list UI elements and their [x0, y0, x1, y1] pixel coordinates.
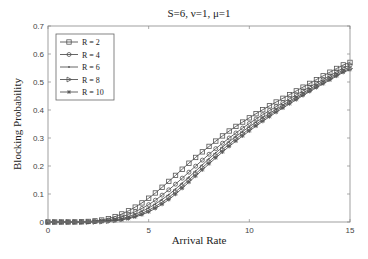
chart: S=6, ν=1, μ=1 00.10.20.30.40.50.60.70510…	[0, 0, 368, 259]
star-marker	[133, 215, 137, 219]
star-marker	[234, 139, 238, 143]
star-marker	[167, 198, 171, 202]
x-tick-label: 5	[146, 226, 151, 235]
star-marker	[314, 86, 318, 90]
x-tick-label: 15	[346, 226, 355, 235]
legend-label: R = 2	[82, 38, 100, 47]
y-tick-label: 0	[40, 218, 45, 227]
x-tick-label: 10	[245, 226, 254, 235]
star-marker	[247, 129, 251, 133]
star-marker	[180, 186, 184, 190]
point-marker	[175, 188, 177, 190]
point-marker	[68, 66, 70, 68]
y-tick-label: 0.5	[33, 78, 45, 87]
star-marker	[160, 202, 164, 206]
star-marker	[241, 134, 245, 138]
point-marker	[201, 164, 203, 166]
star-marker	[274, 110, 278, 114]
star-marker	[174, 192, 178, 196]
star-marker	[67, 90, 71, 94]
x-tick-label: 0	[46, 226, 51, 235]
legend-label: R = 10	[82, 88, 104, 97]
point-marker	[208, 158, 210, 160]
star-marker	[335, 74, 339, 78]
star-marker	[214, 156, 218, 160]
y-tick-label: 0.6	[33, 50, 45, 59]
point-marker	[195, 170, 197, 172]
star-marker	[127, 217, 131, 221]
star-marker	[301, 94, 305, 98]
chart-title: S=6, ν=1, μ=1	[167, 7, 230, 19]
star-marker	[288, 102, 292, 106]
x-axis-label: Arrival Rate	[172, 234, 227, 246]
y-tick-label: 0.3	[33, 134, 45, 143]
legend-label: R = 6	[82, 63, 100, 72]
legend-label: R = 8	[82, 76, 100, 85]
y-axis-label: Blocking Probability	[11, 78, 23, 170]
star-marker	[281, 106, 285, 110]
star-marker	[321, 82, 325, 86]
legend-label: R = 4	[82, 51, 100, 60]
star-marker	[140, 213, 144, 217]
star-marker	[261, 119, 265, 123]
star-marker	[153, 206, 157, 210]
star-marker	[328, 78, 332, 82]
y-tick-label: 0.7	[33, 22, 45, 31]
star-marker	[341, 70, 345, 74]
y-tick-label: 0.1	[33, 190, 45, 199]
star-marker	[207, 162, 211, 166]
point-marker	[188, 176, 190, 178]
star-marker	[294, 98, 298, 102]
star-marker	[187, 180, 191, 184]
legend: R = 2R = 4R = 6R = 8R = 10	[56, 34, 114, 100]
y-tick-label: 0.4	[33, 106, 45, 115]
point-marker	[181, 182, 183, 184]
star-marker	[200, 168, 204, 172]
star-marker	[308, 90, 312, 94]
star-marker	[106, 219, 110, 223]
y-tick-label: 0.2	[33, 162, 45, 171]
star-marker	[254, 124, 258, 128]
star-marker	[147, 210, 151, 214]
star-marker	[120, 218, 124, 222]
star-marker	[267, 115, 271, 119]
point-marker	[168, 194, 170, 196]
star-marker	[227, 144, 231, 148]
star-marker	[194, 174, 198, 178]
star-marker	[220, 150, 224, 154]
